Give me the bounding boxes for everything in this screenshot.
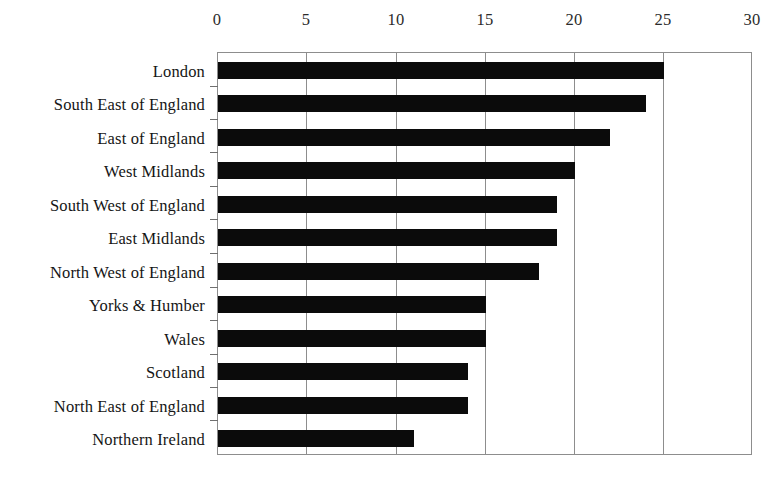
bar-london	[218, 62, 664, 79]
y-axis-tick	[210, 253, 218, 254]
bar-east-of-england	[218, 129, 610, 146]
x-tick-label-30: 30	[744, 10, 761, 30]
gridline-5	[306, 53, 307, 454]
x-tick-label-0: 0	[213, 10, 221, 30]
category-label-wales: Wales	[164, 331, 205, 348]
gridline-25	[663, 53, 664, 454]
bar-chart: 0 5 10 15 20 25 30 London South East of …	[0, 0, 783, 481]
bar-east-midlands	[218, 229, 557, 246]
x-tick-label-20: 20	[566, 10, 583, 30]
category-label-north-east-of-england: North East of England	[54, 398, 205, 415]
bar-south-east-of-england	[218, 95, 646, 112]
bar-north-east-of-england	[218, 397, 468, 414]
y-axis-tick	[210, 86, 218, 87]
category-label-yorks-and-humber: Yorks & Humber	[89, 297, 205, 314]
x-tick-label-15: 15	[477, 10, 494, 30]
bar-yorks-and-humber	[218, 296, 486, 313]
category-label-london: London	[153, 63, 205, 80]
y-axis-tick	[210, 320, 218, 321]
category-label-north-west-of-england: North West of England	[50, 264, 205, 281]
bar-scotland	[218, 363, 468, 380]
y-axis-tick	[210, 287, 218, 288]
category-label-scotland: Scotland	[146, 364, 205, 381]
bar-west-midlands	[218, 162, 575, 179]
bar-northern-ireland	[218, 430, 414, 447]
x-tick-label-10: 10	[388, 10, 405, 30]
category-label-east-midlands: East Midlands	[108, 230, 205, 247]
y-axis-tick	[210, 354, 218, 355]
y-axis-tick	[210, 152, 218, 153]
y-axis-tick	[210, 387, 218, 388]
gridline-10	[396, 53, 397, 454]
gridline-20	[574, 53, 575, 454]
category-label-west-midlands: West Midlands	[104, 163, 205, 180]
x-tick-label-25: 25	[655, 10, 672, 30]
category-label-east-of-england: East of England	[97, 130, 205, 147]
plot-area	[217, 52, 752, 455]
category-label-south-west-of-england: South West of England	[50, 197, 205, 214]
bar-south-west-of-england	[218, 196, 557, 213]
y-axis-tick	[210, 420, 218, 421]
x-tick-label-5: 5	[302, 10, 310, 30]
category-label-south-east-of-england: South East of England	[54, 96, 205, 113]
bar-wales	[218, 330, 486, 347]
bar-north-west-of-england	[218, 263, 539, 280]
y-axis-tick	[210, 219, 218, 220]
category-label-northern-ireland: Northern Ireland	[92, 431, 205, 448]
gridline-15	[485, 53, 486, 454]
y-axis-tick	[210, 186, 218, 187]
y-axis-tick	[210, 119, 218, 120]
